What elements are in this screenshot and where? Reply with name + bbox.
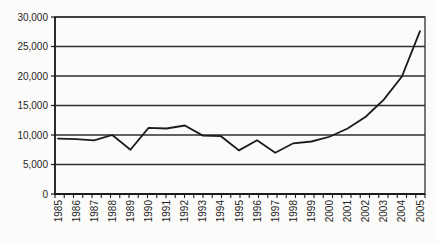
- chart-canvas: 05,00010,00015,00020,00025,00030,0001985…: [0, 0, 437, 243]
- y-tick-label: 10,000: [17, 130, 48, 141]
- x-tick-label: 2001: [342, 200, 353, 223]
- x-tick-label: 2004: [396, 200, 407, 223]
- y-tick-label: 5,000: [23, 159, 48, 170]
- x-tick-label: 2003: [378, 200, 389, 223]
- x-tick-label: 1998: [288, 200, 299, 223]
- x-tick-label: 1989: [125, 200, 136, 223]
- y-tick-label: 0: [42, 189, 48, 200]
- x-tick-label: 1999: [306, 200, 317, 223]
- x-tick-label: 1990: [143, 200, 154, 223]
- line-chart-figure: 05,00010,00015,00020,00025,00030,0001985…: [0, 0, 437, 243]
- y-tick-label: 15,000: [17, 100, 48, 111]
- x-tick-label: 1987: [89, 200, 100, 223]
- x-tick-label: 2002: [360, 200, 371, 223]
- x-tick-label: 1991: [161, 200, 172, 223]
- x-tick-label: 1985: [53, 200, 64, 223]
- x-tick-label: 2000: [324, 200, 335, 223]
- x-tick-label: 1993: [197, 200, 208, 223]
- y-tick-label: 30,000: [17, 12, 48, 23]
- x-tick-label: 1996: [252, 200, 263, 223]
- x-tick-label: 1988: [107, 200, 118, 223]
- x-tick-label: 2005: [415, 200, 426, 223]
- x-tick-label: 1997: [270, 200, 281, 223]
- x-tick-label: 1994: [215, 200, 226, 223]
- x-tick-label: 1992: [179, 200, 190, 223]
- y-tick-label: 20,000: [17, 71, 48, 82]
- y-tick-label: 25,000: [17, 41, 48, 52]
- x-tick-label: 1986: [71, 200, 82, 223]
- x-tick-label: 1995: [234, 200, 245, 223]
